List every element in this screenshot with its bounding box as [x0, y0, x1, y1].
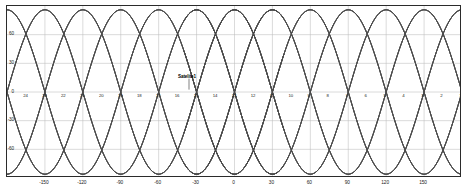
x-tick-label: -150: [33, 180, 55, 186]
y-tick-label: 30: [0, 60, 14, 65]
x-tick-label: 0: [223, 180, 245, 186]
ground-track-canvas: [7, 6, 461, 177]
satellite-number: 11: [270, 93, 274, 98]
ground-track-figure: Satelite1 242322212019181716151413121110…: [0, 0, 468, 195]
satellite-number: 12: [251, 93, 255, 98]
y-tick-label: 0: [0, 89, 14, 94]
satellite-number: 2: [440, 93, 442, 98]
x-tick-label: -30: [185, 180, 207, 186]
satellite-number: 15: [194, 93, 198, 98]
x-tick-label: 90: [336, 180, 358, 186]
y-tick-label: -30: [0, 117, 14, 122]
satellite-number: 5: [383, 93, 385, 98]
satellite-number: 14: [213, 93, 217, 98]
x-tick-label: -120: [71, 180, 93, 186]
satellite-number: 19: [118, 93, 122, 98]
satellite-number: 4: [402, 93, 404, 98]
y-tick-label: 60: [0, 31, 14, 36]
satellite-number: 22: [61, 93, 65, 98]
satellite-number: 10: [289, 93, 293, 98]
satellite-number: 3: [421, 93, 423, 98]
satellite-number: 6: [364, 93, 366, 98]
x-tick-label: 60: [298, 180, 320, 186]
x-tick-label: -60: [147, 180, 169, 186]
x-tick-label: 150: [412, 180, 434, 186]
satellite-number: 16: [175, 93, 179, 98]
satellite-number: 17: [156, 93, 160, 98]
satellite-number: 13: [232, 93, 236, 98]
satellite-number: 23: [42, 93, 46, 98]
y-tick-label: -60: [0, 146, 14, 151]
satellite-number: 1: [459, 93, 461, 98]
satellite-number: 18: [137, 93, 141, 98]
x-tick-label: -90: [109, 180, 131, 186]
x-tick-label: 30: [260, 180, 282, 186]
satellite-number: 9: [308, 93, 310, 98]
satellite-number: 21: [80, 93, 84, 98]
satellite-number: 24: [23, 93, 27, 98]
x-tick-label: 120: [374, 180, 396, 186]
satellite-number: 8: [327, 93, 329, 98]
satellite-number: 20: [99, 93, 103, 98]
grid-lines: [7, 6, 461, 177]
plot-area: Satelite1 242322212019181716151413121110…: [6, 5, 461, 177]
satellite-callout-label: Satelite1: [178, 74, 196, 79]
satellite-number: 7: [345, 93, 347, 98]
